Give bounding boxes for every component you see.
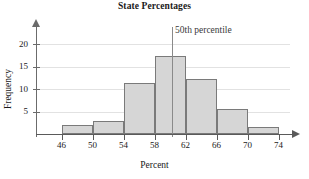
percentile-line [172, 27, 173, 137]
x-tick-label-58: 58 [143, 140, 167, 150]
x-tick-label-74: 74 [267, 140, 291, 150]
y-tick-15 [33, 67, 40, 68]
y-tick-10 [33, 89, 40, 90]
y-tick-20 [33, 44, 40, 45]
y-tick-label-20: 20 [6, 40, 28, 49]
bar-46-50 [62, 125, 93, 134]
bar-50-54 [93, 121, 124, 135]
y-axis-arrow [32, 19, 40, 27]
x-tick-label-50: 50 [81, 140, 105, 150]
x-tick-label-70: 70 [236, 140, 260, 150]
x-tick-label-62: 62 [174, 140, 198, 150]
bar-62-66 [186, 79, 217, 134]
y-axis-line [36, 26, 37, 137]
x-tick-label-46: 46 [50, 140, 74, 150]
x-axis-title: Percent [0, 160, 309, 170]
plot-area: 50th percentile 5 10 15 20 46 50 54 58 6… [0, 0, 309, 179]
histogram-chart: State Percentages 50th percentile 5 10 1… [0, 0, 309, 179]
x-tick-label-54: 54 [112, 140, 136, 150]
gridline-20 [36, 44, 290, 45]
bar-58-62 [155, 56, 186, 134]
y-axis-title: Frequency [3, 53, 13, 125]
bar-70-74 [248, 127, 279, 134]
x-axis-line [36, 134, 294, 135]
x-tick-label-66: 66 [205, 140, 229, 150]
x-axis-arrow [292, 130, 300, 138]
y-tick-5 [33, 112, 40, 113]
bar-66-70 [217, 109, 248, 134]
percentile-label: 50th percentile [175, 25, 232, 35]
bar-54-58 [124, 83, 155, 134]
